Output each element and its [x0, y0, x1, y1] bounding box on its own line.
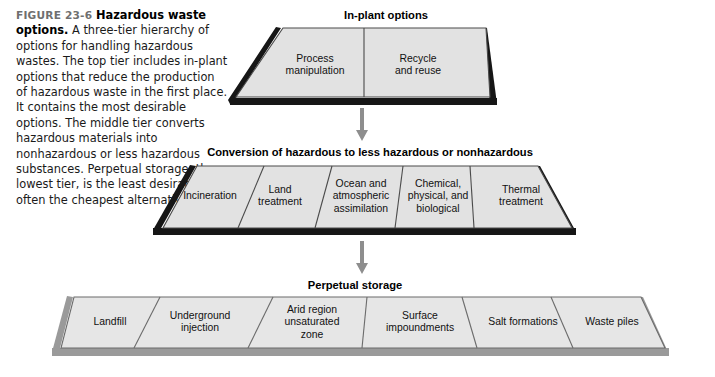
tier-cell-underground-injection: Underground injection: [152, 310, 248, 335]
tier-cell-landfill: Landfill: [73, 316, 147, 328]
figure-hazardous-waste-options: FIGURE 23-6 Hazardous waste options. A t…: [0, 0, 715, 377]
tier-cell-salt-formations: Salt formations: [475, 316, 571, 328]
tier-cell-arid-region-unsaturated-zone: Arid region unsaturated zone: [267, 304, 357, 341]
tier-cell-waste-piles: Waste piles: [570, 316, 654, 328]
tier-cell-surface-impoundments: Surface impoundments: [370, 310, 470, 335]
tier-shadow-perpetual-base: [52, 348, 669, 356]
